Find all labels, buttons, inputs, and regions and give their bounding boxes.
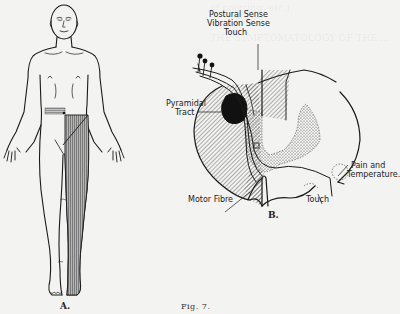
label-tract: Tract <box>175 108 194 117</box>
body-figure <box>4 5 124 295</box>
label-temperature: Temperature. <box>347 170 400 179</box>
caption-panel-a: A. <box>60 301 70 311</box>
label-touch-top: Touch <box>224 28 247 37</box>
figure-number: Fig. 7. <box>181 302 210 311</box>
label-motor-fibre: Motor Fibre <box>188 195 233 204</box>
shaded-sensory-region <box>45 108 89 295</box>
label-postural-sense: Postural Sense <box>209 10 268 19</box>
label-pain-and: Pain and <box>351 161 385 170</box>
caption-panel-b: B. <box>268 210 279 220</box>
label-pyramidal: Pyramidal <box>166 99 206 108</box>
cord-section <box>193 44 360 212</box>
label-vibration-sense: Vibration Sense <box>207 19 270 28</box>
label-touch-bottom: Touch <box>306 195 329 204</box>
